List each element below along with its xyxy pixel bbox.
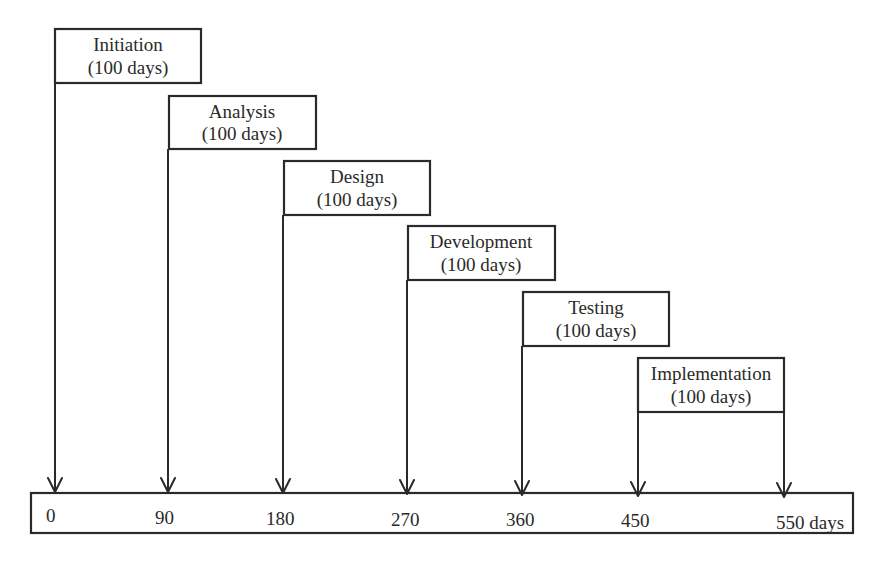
phase-name: Testing xyxy=(568,297,624,318)
phase-name: Initiation xyxy=(93,34,163,55)
phase-development: Development (100 days) xyxy=(400,226,555,494)
tick-label: 90 xyxy=(155,507,174,528)
phase-name: Development xyxy=(430,231,533,252)
phase-name: Analysis xyxy=(209,101,276,122)
phase-duration: (100 days) xyxy=(202,123,283,145)
tick-label: 450 xyxy=(621,510,650,531)
phase-analysis: Analysis (100 days) xyxy=(161,96,316,492)
phase-duration: (100 days) xyxy=(441,254,522,276)
phase-duration: (100 days) xyxy=(88,57,169,79)
phase-duration: (100 days) xyxy=(671,386,752,408)
phase-duration: (100 days) xyxy=(317,189,398,211)
tick-label: 0 xyxy=(46,505,56,526)
phase-name: Implementation xyxy=(651,363,772,384)
phase-name: Design xyxy=(330,166,384,187)
tick-label: 360 xyxy=(506,509,535,530)
phase-implementation: Implementation (100 days) xyxy=(631,358,791,497)
tick-label: 180 xyxy=(266,508,295,529)
phase-duration: (100 days) xyxy=(556,320,637,342)
tick-label: 270 xyxy=(391,509,420,530)
phase-timeline-diagram: Initiation (100 days) Analysis (100 days… xyxy=(0,0,893,565)
tick-label: 550 days xyxy=(776,512,844,533)
